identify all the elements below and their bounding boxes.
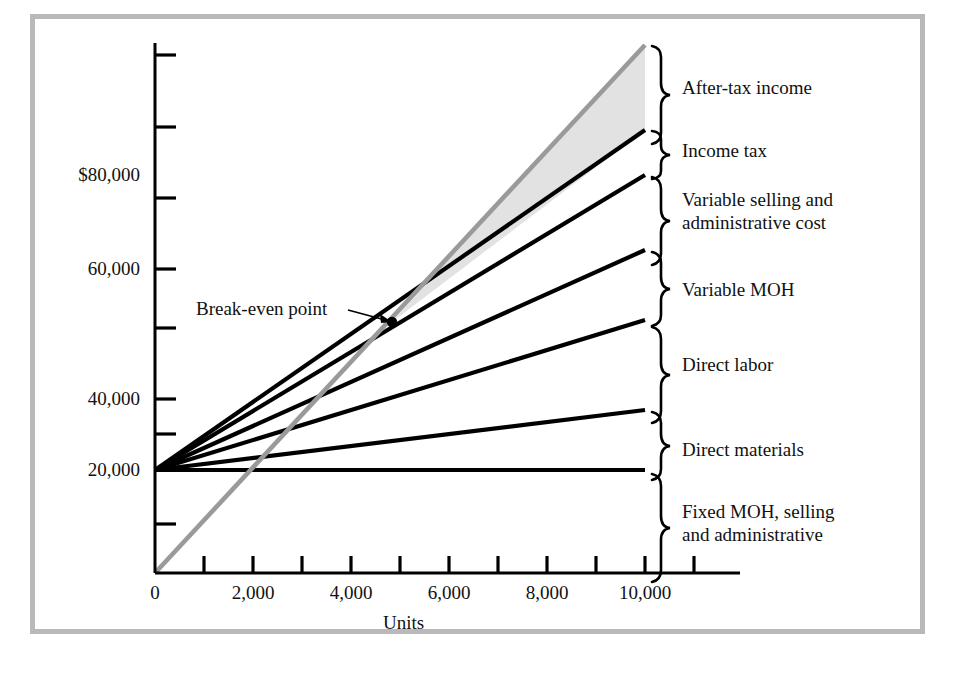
legend-label-direct-labor-line-1: Direct labor (682, 353, 773, 376)
legend-label-fixed-moh-selling-admin-line-1: Fixed MOH, selling (682, 500, 835, 523)
legend-label-direct-labor: Direct labor (682, 353, 773, 376)
x-axis-ticks (204, 556, 694, 573)
legend-label-direct-materials-line-1: Direct materials (682, 438, 804, 461)
y-tick-label-40000: 40,000 (40, 388, 140, 410)
break-even-point-label: Break-even point (196, 298, 327, 320)
y-axis-ticks (155, 55, 176, 524)
legend-label-income-tax: Income tax (682, 139, 767, 162)
x-tick-label-6000: 6,000 (409, 582, 489, 604)
legend-label-variable-selling-admin-line-1: Variable selling and (682, 188, 833, 211)
brace-income-tax (652, 131, 670, 179)
brace-after-tax-income (652, 46, 670, 144)
x-tick-label-10000: 10,000 (600, 582, 690, 604)
x-axis-title-text: Units (383, 612, 424, 633)
y-tick-label-20000: 20,000 (40, 459, 140, 481)
legend-label-direct-materials: Direct materials (682, 438, 804, 461)
x-axis-title: Units (0, 612, 963, 634)
legend-label-after-tax-income: After-tax income (682, 76, 812, 99)
x-tick-label-4000: 4,000 (311, 582, 391, 604)
legend-label-variable-selling-admin-line-2: administrative cost (682, 211, 833, 234)
y-tick-label-80000: $80,000 (40, 164, 140, 186)
brace-fixed-moh-selling-admin (652, 474, 670, 582)
legend-label-variable-moh: Variable MOH (682, 278, 794, 301)
legend-label-variable-selling-admin: Variable selling and administrative cost (682, 188, 833, 234)
legend-label-fixed-moh-selling-admin-line-2: and administrative (682, 523, 835, 546)
series-line-variable-moh (155, 250, 645, 470)
y-tick-label-60000: 60,000 (40, 258, 140, 280)
legend-label-variable-moh-line-1: Variable MOH (682, 278, 794, 301)
brace-direct-labor (652, 327, 670, 423)
series-line-direct-labor (155, 320, 645, 470)
legend-label-fixed-moh-selling-admin: Fixed MOH, selling and administrative (682, 500, 835, 546)
x-tick-label-2000: 2,000 (213, 582, 293, 604)
series-line-variable-selling-admin (155, 175, 645, 470)
legend-label-income-tax-line-1: Income tax (682, 139, 767, 162)
legend-braces (652, 46, 670, 582)
legend-label-after-tax-income-line-1: After-tax income (682, 76, 812, 99)
x-tick-label-0: 0 (125, 582, 185, 604)
x-tick-label-8000: 8,000 (507, 582, 587, 604)
